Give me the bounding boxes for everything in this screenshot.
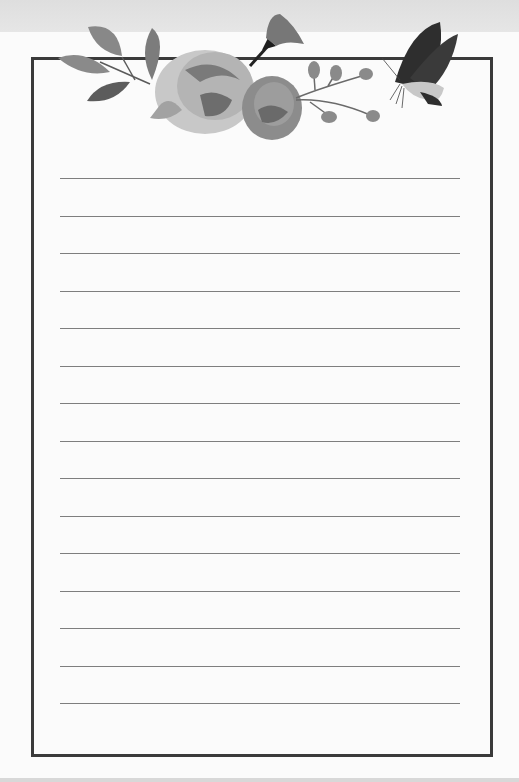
page-border-frame — [31, 57, 493, 757]
writing-line — [60, 553, 460, 554]
writing-line — [60, 666, 460, 667]
writing-line — [60, 591, 460, 592]
writing-line — [60, 403, 460, 404]
writing-line — [60, 291, 460, 292]
writing-line — [60, 441, 460, 442]
writing-line — [60, 516, 460, 517]
writing-line — [60, 478, 460, 479]
writing-line — [60, 628, 460, 629]
writing-line — [60, 328, 460, 329]
writing-line — [60, 253, 460, 254]
top-background-band — [0, 0, 519, 32]
writing-line — [60, 703, 460, 704]
writing-line — [60, 366, 460, 367]
writing-line — [60, 178, 460, 179]
writing-line — [60, 216, 460, 217]
bottom-background-band — [0, 778, 519, 782]
